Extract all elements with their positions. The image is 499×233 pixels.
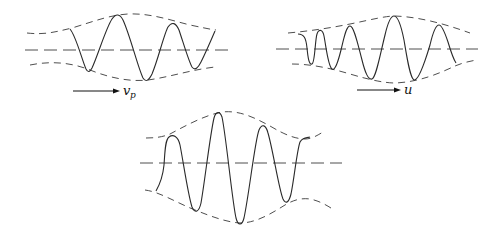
wave-packets-diagram: v p u: [0, 0, 499, 233]
wave-curve: [298, 16, 456, 80]
lower-envelope: [30, 63, 215, 81]
panel-top-left: [25, 14, 232, 81]
upper-envelope: [288, 16, 470, 33]
arrow-vp: v p: [73, 83, 136, 100]
arrow-label-u: u: [404, 82, 412, 97]
panel-top-right: [276, 16, 478, 83]
wave-curve: [156, 113, 310, 224]
upper-envelope: [146, 112, 323, 139]
panel-bottom: [140, 112, 342, 224]
lower-envelope: [292, 60, 477, 83]
arrow-u: u: [357, 82, 412, 97]
lower-envelope: [145, 190, 334, 223]
arrow-label-vp-subscript: p: [130, 90, 136, 100]
